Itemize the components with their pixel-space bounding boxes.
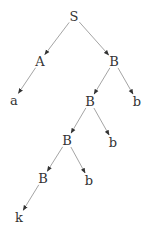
tree-node-b: b — [85, 174, 93, 187]
tree-edge-S-to-B — [79, 22, 108, 55]
tree-node-b: b — [109, 136, 117, 149]
tree-node-B: B — [85, 95, 95, 108]
tree-edge-B-to-B — [94, 68, 110, 94]
tree-edge-B-to-b — [94, 108, 109, 135]
tree-node-b: b — [133, 95, 141, 108]
tree-edge-B-to-k — [23, 185, 39, 210]
tree-node-B: B — [38, 172, 48, 185]
tree-edge-B-to-b — [71, 147, 85, 173]
tree-node-a: a — [10, 94, 18, 107]
tree-edges — [0, 0, 148, 238]
tree-edge-S-to-A — [45, 22, 69, 54]
tree-node-B: B — [109, 55, 119, 68]
tree-edge-B-to-b — [118, 68, 133, 94]
tree-node-S: S — [70, 10, 79, 23]
tree-edge-A-to-a — [18, 68, 35, 94]
tree-edge-B-to-B — [71, 108, 86, 133]
tree-edge-B-to-B — [47, 147, 62, 171]
tree-node-A: A — [35, 55, 44, 68]
tree-node-B: B — [62, 134, 72, 147]
tree-node-k: k — [15, 211, 23, 224]
